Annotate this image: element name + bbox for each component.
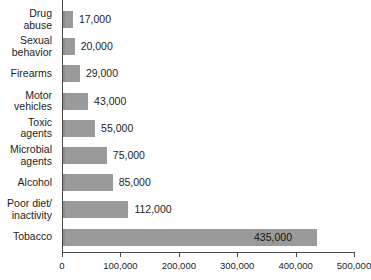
x-axis-line (62, 252, 354, 253)
bar (63, 201, 128, 218)
category-label: Firearms (0, 68, 58, 80)
x-axis-tick (237, 252, 238, 257)
x-axis-tick-label: 0 (59, 260, 64, 271)
bar (63, 147, 107, 164)
bar (63, 120, 95, 137)
x-axis-tick-label: 400,000 (278, 260, 312, 271)
x-axis-tick-label: 300,000 (220, 260, 254, 271)
category-label: Poor diet/ inactivity (0, 198, 58, 221)
category-label: Drug abuse (0, 8, 58, 31)
plot-area: 17,00020,00029,00043,00055,00075,00085,0… (62, 0, 365, 252)
category-label: Motor vehicles (0, 90, 58, 113)
bar-value-label: 43,000 (94, 93, 126, 110)
category-label: Tobacco (0, 231, 58, 243)
x-axis-tick-label: 100,000 (103, 260, 137, 271)
category-axis-labels: Drug abuseSexual behaviorFirearmsMotor v… (0, 0, 58, 252)
bar-value-label: 29,000 (86, 65, 118, 82)
x-axis-tick (120, 252, 121, 257)
bar-value-label: 17,000 (79, 11, 111, 28)
bar-value-label: 55,000 (101, 120, 133, 137)
bar-value-label: 435,000 (254, 229, 292, 246)
bar-value-label: 112,000 (134, 201, 171, 218)
bar (63, 11, 73, 28)
bar (63, 93, 88, 110)
category-label: Alcohol (0, 177, 58, 189)
category-label: Sexual behavior (0, 35, 58, 58)
bar (63, 174, 113, 191)
category-label: Toxic agents (0, 117, 58, 140)
x-axis-tick (179, 252, 180, 257)
bar (63, 65, 80, 82)
bar-value-label: 85,000 (119, 174, 151, 191)
x-axis-tick (296, 252, 297, 257)
x-axis-tick-label: 500,000 (337, 260, 371, 271)
x-axis-tick (62, 252, 63, 257)
category-label: Microbial agents (0, 144, 58, 167)
bar-value-label: 75,000 (113, 147, 145, 164)
x-axis-tick-label: 200,000 (162, 260, 196, 271)
bar (63, 38, 75, 55)
bar-value-label: 20,000 (81, 38, 113, 55)
x-axis-tick (354, 252, 355, 257)
